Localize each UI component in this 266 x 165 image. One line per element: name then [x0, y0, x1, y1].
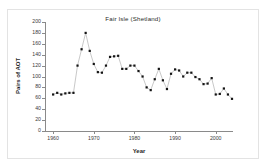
data-point [101, 72, 103, 74]
data-point [129, 65, 131, 67]
data-point [105, 65, 107, 67]
data-point [64, 92, 66, 94]
y-tick-label: 200 [32, 19, 41, 24]
x-tick-mark [94, 131, 95, 134]
y-tick-label: 60 [35, 96, 41, 101]
data-point [85, 32, 87, 34]
y-tick-mark [42, 131, 45, 132]
data-point [113, 55, 115, 57]
data-point [190, 72, 192, 74]
x-tick-mark [134, 131, 135, 134]
y-tick-label: 40 [35, 107, 41, 112]
data-point [227, 93, 229, 95]
data-point [166, 88, 168, 90]
data-point [76, 65, 78, 67]
data-point [162, 79, 164, 81]
data-point [194, 76, 196, 78]
data-point [141, 75, 143, 77]
data-point [56, 92, 58, 94]
y-tick-label: 180 [32, 30, 41, 35]
data-point [198, 78, 200, 80]
y-tick-label: 0 [38, 128, 41, 133]
plot-area: 020406080100120140160180200 196019701980… [45, 22, 232, 131]
data-point [174, 68, 176, 70]
x-tick-label: 1990 [169, 136, 181, 141]
data-point [109, 56, 111, 58]
data-point [158, 68, 160, 70]
y-tick-label: 20 [35, 117, 41, 122]
data-point [231, 98, 233, 100]
data-point [182, 75, 184, 77]
data-point [223, 87, 225, 89]
data-point [68, 92, 70, 94]
data-point [178, 69, 180, 71]
x-tick-label: 1980 [129, 136, 141, 141]
x-tick-label: 2000 [210, 136, 222, 141]
y-tick-label: 120 [32, 63, 41, 68]
x-tick-label: 1970 [88, 136, 100, 141]
x-axis-label: Year [45, 148, 233, 154]
data-point [219, 93, 221, 95]
chart-figure: Fair Isle (Shetland) Pairs of AOT Year 0… [0, 0, 266, 165]
data-point [133, 65, 135, 67]
data-point [97, 71, 99, 73]
x-tick-mark [216, 131, 217, 134]
y-tick-label: 80 [35, 85, 41, 90]
series-markers [52, 32, 233, 100]
data-point [154, 78, 156, 80]
data-point [170, 73, 172, 75]
data-point [211, 77, 213, 79]
x-tick-mark [53, 131, 54, 134]
data-point [202, 83, 204, 85]
x-tick-mark [175, 131, 176, 134]
data-point [186, 72, 188, 74]
data-point [207, 82, 209, 84]
x-axis-line [45, 131, 233, 132]
y-axis-label: Pairs of AOT [15, 58, 21, 94]
data-point [52, 93, 54, 95]
data-point [150, 89, 152, 91]
series-line [53, 33, 232, 99]
y-tick-label: 100 [32, 74, 41, 79]
x-tick-label: 1960 [47, 136, 59, 141]
data-point [117, 55, 119, 57]
data-point [137, 70, 139, 72]
data-point [146, 86, 148, 88]
data-point [125, 68, 127, 70]
data-point [80, 48, 82, 50]
data-point [60, 93, 62, 95]
data-point [121, 68, 123, 70]
data-point [215, 93, 217, 95]
data-series-layer [45, 22, 232, 131]
data-point [93, 63, 95, 65]
data-point [72, 92, 74, 94]
y-tick-label: 160 [32, 41, 41, 46]
y-tick-label: 140 [32, 52, 41, 57]
data-point [89, 50, 91, 52]
